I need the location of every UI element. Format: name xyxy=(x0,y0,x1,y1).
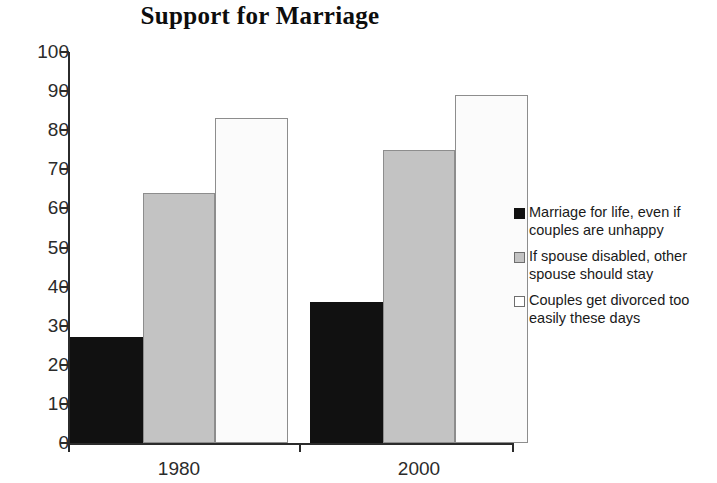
y-axis-tick-label: 0 xyxy=(23,432,69,454)
x-axis-tick xyxy=(299,443,301,452)
y-axis-tick-label: 10 xyxy=(23,393,69,415)
y-axis-tick-label: 100 xyxy=(23,41,69,63)
legend-item[interactable]: Marriage for life, even if couples are u… xyxy=(514,204,714,239)
legend-item[interactable]: If spouse disabled, other spouse should … xyxy=(514,248,714,283)
x-axis-category-label: 1980 xyxy=(119,458,239,480)
legend-item[interactable]: Couples get divorced too easily these da… xyxy=(514,292,714,327)
bar-2000-series-1 xyxy=(383,150,456,443)
legend-swatch-icon xyxy=(514,252,525,263)
x-axis-tick-end xyxy=(512,443,514,452)
y-axis-tick-label: 30 xyxy=(23,315,69,337)
legend-swatch-icon xyxy=(514,208,525,219)
bar-1980-series-2 xyxy=(215,118,288,443)
plot-area: 1009080706050403020100 19802000 xyxy=(0,0,520,483)
bar-1980-series-0 xyxy=(70,337,143,443)
chart-legend: Marriage for life, even if couples are u… xyxy=(514,204,714,336)
y-axis-tick-label: 60 xyxy=(23,197,69,219)
x-axis-tick xyxy=(68,443,70,452)
y-axis-tick-label: 70 xyxy=(23,158,69,180)
legend-swatch-icon xyxy=(514,296,525,307)
y-axis-tick-label: 50 xyxy=(23,237,69,259)
y-axis-tick-label: 20 xyxy=(23,354,69,376)
x-axis-line xyxy=(68,443,514,445)
legend-item-label: If spouse disabled, other spouse should … xyxy=(529,248,711,283)
x-axis-category-label: 2000 xyxy=(359,458,479,480)
y-axis-tick-label: 40 xyxy=(23,276,69,298)
y-axis-tick-label: 90 xyxy=(23,80,69,102)
y-axis-tick-label: 80 xyxy=(23,119,69,141)
bar-2000-series-0 xyxy=(310,302,383,443)
legend-item-label: Marriage for life, even if couples are u… xyxy=(529,204,711,239)
legend-item-label: Couples get divorced too easily these da… xyxy=(529,292,711,327)
bar-1980-series-1 xyxy=(143,193,216,443)
